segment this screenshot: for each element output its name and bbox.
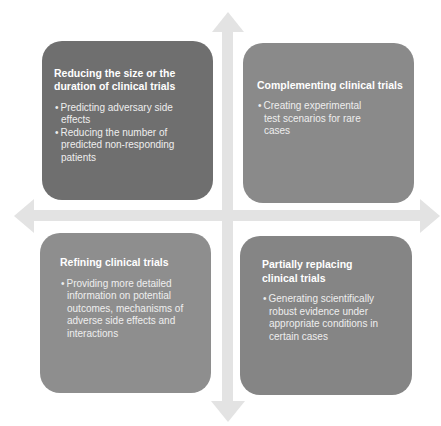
quadrant-refining: Refining clinical trials Providing more … bbox=[40, 233, 211, 393]
bullet-item: Generating scientifically robust evidenc… bbox=[262, 293, 394, 343]
quadrant-partially-replacing: Partially replacing clinical trials Gene… bbox=[240, 236, 412, 395]
quadrant-title: Reducing the size or the duration of cli… bbox=[54, 67, 201, 94]
bullet-list: Predicting adversary side effects Reduci… bbox=[54, 102, 201, 165]
quadrant-title: Complementing clinical trials bbox=[257, 79, 404, 93]
horizontal-axis bbox=[30, 210, 422, 221]
bullet-item: Creating experimental test scenarios for… bbox=[257, 100, 374, 138]
arrow-down-icon bbox=[211, 401, 245, 422]
quadrant-title: Refining clinical trials bbox=[60, 256, 201, 270]
bullet-item: Predicting adversary side effects bbox=[54, 102, 201, 127]
bullet-list: Creating experimental test scenarios for… bbox=[257, 100, 404, 138]
quadrant-complementing: Complementing clinical trials Creating e… bbox=[243, 43, 414, 203]
arrow-up-icon bbox=[212, 12, 244, 32]
bullet-list: Generating scientifically robust evidenc… bbox=[262, 293, 402, 343]
arrow-right-icon bbox=[420, 199, 440, 233]
bullet-item: Providing more detailed information on p… bbox=[60, 278, 202, 341]
quadrant-title: Partially replacing clinical trials bbox=[262, 258, 362, 285]
bullet-list: Providing more detailed information on p… bbox=[60, 278, 201, 341]
arrow-left-icon bbox=[14, 199, 34, 233]
quadrant-reducing-size: Reducing the size or the duration of cli… bbox=[42, 41, 213, 200]
bullet-item: Reducing the number of predicted non-res… bbox=[54, 127, 201, 165]
